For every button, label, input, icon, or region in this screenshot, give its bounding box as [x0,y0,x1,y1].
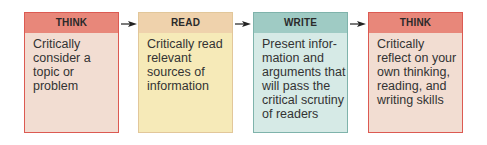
step-description: Present infor- mation and arguments that… [254,33,347,121]
step-think-1: THINK Critically consider a topic or pro… [24,12,119,133]
step-description: Critically read relevant sources of info… [139,33,232,93]
arrow-right-icon [121,20,138,28]
step-description: Critically reflect on your own thinking,… [369,33,462,107]
step-description: Critically consider a topic or problem [25,33,118,93]
step-title: THINK [25,13,118,33]
step-read: READ Critically read relevant sources of… [138,12,233,133]
arrow-right-icon [235,20,252,28]
step-title: WRITE [254,13,347,33]
step-think-2: THINK Critically reflect on your own thi… [368,12,463,133]
arrow-right-icon [350,20,367,28]
step-title: THINK [369,13,462,33]
step-write: WRITE Present infor- mation and argument… [253,12,348,133]
step-title: READ [139,13,232,33]
